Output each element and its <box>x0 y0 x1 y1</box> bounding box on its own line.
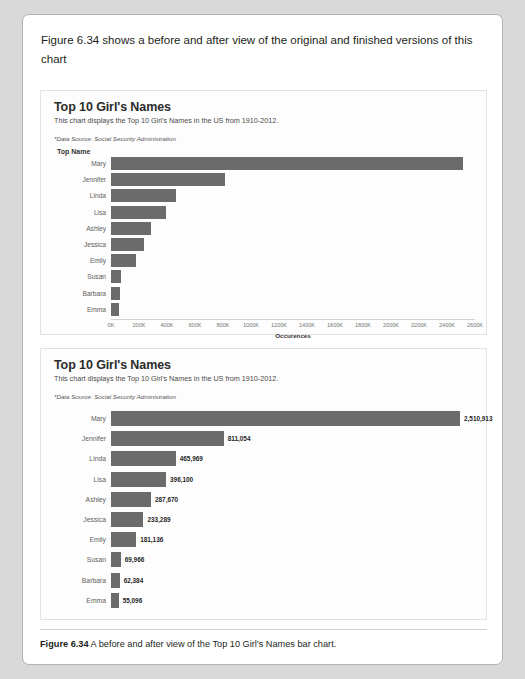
bar <box>111 238 144 251</box>
bar-category-label: Emily <box>54 257 111 264</box>
chart-source-note-after: *Data Source: Social Security Administra… <box>54 393 176 400</box>
bar-category-label: Barbara <box>54 577 111 584</box>
bar-track <box>111 270 475 283</box>
bar <box>111 472 166 487</box>
bar-row: Mary2,510,913 <box>54 411 475 426</box>
bar-row: Barbara62,384 <box>54 573 475 588</box>
bar-category-label: Ashley <box>54 496 111 503</box>
bar-row: Linda <box>54 189 475 202</box>
x-axis-ticks-before: 0K200K400K600K800K1000K1200K1400K1600K18… <box>111 322 475 332</box>
figure-caption-label: Figure 6.34 <box>40 639 89 649</box>
bar-row: Linda465,969 <box>54 451 475 466</box>
x-axis-tick-label: 800K <box>216 322 229 328</box>
bar-category-label: Jennifer <box>54 435 111 442</box>
chart-panel-after: Top 10 Girl's Names This chart displays … <box>40 348 487 620</box>
bar-category-label: Emma <box>54 597 111 604</box>
bar-track <box>111 254 475 267</box>
chart-title-after: Top 10 Girl's Names <box>54 358 171 372</box>
chart-subtitle-before: This chart displays the Top 10 Girl's Na… <box>54 116 278 125</box>
bar-track: 55,096 <box>111 593 475 608</box>
bar-category-label: Ashley <box>54 225 111 232</box>
bar-value-label: 287,670 <box>151 496 178 503</box>
x-axis-tick-label: 1800K <box>355 322 371 328</box>
bar-row: Ashley287,670 <box>54 492 475 507</box>
bar <box>111 492 151 507</box>
bar-category-label: Jennifer <box>54 176 111 183</box>
bar-track <box>111 303 475 316</box>
bar-category-label: Barbara <box>54 290 111 297</box>
bar-value-label: 811,054 <box>224 435 251 442</box>
bar-row: Lisa <box>54 206 475 219</box>
bar-row: Emma55,096 <box>54 593 475 608</box>
bar-value-label: 2,510,913 <box>460 415 492 422</box>
x-axis-tick-label: 400K <box>160 322 173 328</box>
bar-track: 465,969 <box>111 451 475 466</box>
bar-category-label: Linda <box>54 192 111 199</box>
x-axis-tick-label: 1600K <box>327 322 343 328</box>
x-axis-tick-label: 0K <box>108 322 115 328</box>
bar-value-label: 181,136 <box>136 536 163 543</box>
bar-category-label: Susan <box>54 273 111 280</box>
bar <box>111 287 120 300</box>
bar-value-label: 233,289 <box>143 516 170 523</box>
chart-subtitle-after: This chart displays the Top 10 Girl's Na… <box>54 374 278 383</box>
bar-category-label: Emily <box>54 536 111 543</box>
bar-track <box>111 206 475 219</box>
bar-value-label: 62,384 <box>120 577 144 584</box>
plot-area-after: Mary2,510,913Jennifer811,054Linda465,969… <box>54 411 475 611</box>
bar-value-label: 465,969 <box>176 455 203 462</box>
bar-track: 233,289 <box>111 512 475 527</box>
plot-area-before: MaryJenniferLindaLisaAshleyJessicaEmilyS… <box>54 157 475 319</box>
bar-row: Susan69,966 <box>54 552 475 567</box>
bar <box>111 303 119 316</box>
bar <box>111 451 176 466</box>
bar-row: Emma <box>54 303 475 316</box>
bar-track: 181,136 <box>111 532 475 547</box>
bar <box>111 206 166 219</box>
bar-category-label: Emma <box>54 306 111 313</box>
document-page: Figure 6.34 shows a before and after vie… <box>22 14 503 665</box>
bar-track <box>111 157 475 170</box>
bar <box>111 552 121 567</box>
bar-value-label: 396,100 <box>166 476 193 483</box>
bar <box>111 573 120 588</box>
bar-category-label: Lisa <box>54 209 111 216</box>
bar-track: 811,054 <box>111 431 475 446</box>
chart-title-before: Top 10 Girl's Names <box>54 100 171 114</box>
bar <box>111 593 119 608</box>
category-axis-header-before: Top Name <box>57 148 90 155</box>
bar <box>111 270 121 283</box>
bar <box>111 431 224 446</box>
bar-track <box>111 189 475 202</box>
bar-row: Emily <box>54 254 475 267</box>
x-axis-tick-label: 1000K <box>243 322 259 328</box>
bar-track: 2,510,913 <box>111 411 492 426</box>
bar-category-label: Lisa <box>54 476 111 483</box>
bar <box>111 157 463 170</box>
bar-track: 396,100 <box>111 472 475 487</box>
bar-track <box>111 238 475 251</box>
bar-row: Lisa396,100 <box>54 472 475 487</box>
x-axis-tick-label: 1200K <box>271 322 287 328</box>
bar <box>111 512 143 527</box>
x-axis-title-before: Occurences <box>111 332 475 339</box>
bar-category-label: Mary <box>54 160 111 167</box>
bar-row: Susan <box>54 270 475 283</box>
bar-row: Jennifer811,054 <box>54 431 475 446</box>
x-axis-tick-label: 2000K <box>383 322 399 328</box>
x-axis-tick-label: 2400K <box>439 322 455 328</box>
bar-track: 287,670 <box>111 492 475 507</box>
bar-category-label: Mary <box>54 415 111 422</box>
x-axis-line-before <box>111 319 475 320</box>
bar <box>111 222 151 235</box>
bar-row: Jessica <box>54 238 475 251</box>
bar-category-label: Jessica <box>54 516 111 523</box>
chart-source-note-before: *Data Source: Social Security Administra… <box>54 135 176 142</box>
bar <box>111 532 136 547</box>
bar-value-label: 69,966 <box>121 556 145 563</box>
x-axis-tick-label: 2600K <box>467 322 483 328</box>
bar-row: Jennifer <box>54 173 475 186</box>
x-axis-tick-label: 600K <box>188 322 201 328</box>
bar <box>111 189 176 202</box>
bar-track: 62,384 <box>111 573 475 588</box>
